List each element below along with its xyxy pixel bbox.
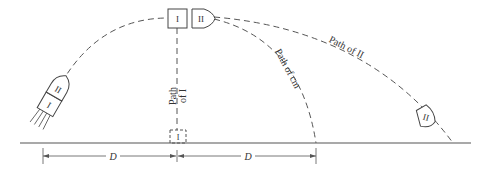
dimension-right-label: D — [243, 151, 252, 162]
dimension-left: D — [43, 148, 176, 164]
trajectory-launch-to-apex — [62, 18, 168, 82]
falling-piece-two: II — [413, 103, 439, 130]
landed-label-one: I — [177, 133, 180, 142]
apex-piece-one: I — [168, 9, 187, 28]
apex-piece-two: II — [192, 9, 215, 28]
apex-label-two: II — [198, 14, 204, 24]
path-of-cm-label: Path of cm — [273, 47, 303, 91]
projectile-explosion-diagram: I II I II I II Path of I Path of cm Path… — [0, 0, 492, 170]
dimension-right: D — [178, 148, 316, 164]
path-of-one-label-line2: of I — [177, 89, 188, 103]
rocket-at-launch: I II — [29, 71, 74, 130]
path-of-two-label: Path of II — [327, 33, 366, 60]
apex-label-one: I — [176, 14, 179, 24]
landed-piece-one: I — [170, 130, 186, 143]
dimension-left-label: D — [108, 151, 117, 162]
